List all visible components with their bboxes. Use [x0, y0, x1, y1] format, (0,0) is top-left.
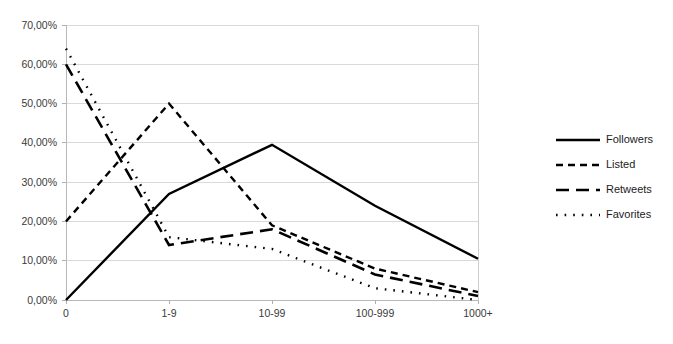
legend-label-favorites: Favorites: [606, 208, 652, 220]
legend-label-listed: Listed: [606, 158, 635, 170]
x-axis-tick-label: 10-99: [259, 307, 286, 319]
y-axis-tick-label: 20,00%: [21, 215, 57, 227]
y-axis-tick-label: 40,00%: [21, 136, 57, 148]
legend-label-followers: Followers: [606, 133, 654, 145]
y-axis-tick-label: 70,00%: [21, 19, 57, 31]
y-axis-tick-label: 50,00%: [21, 97, 57, 109]
chart-container: 0,00%10,00%20,00%30,00%40,00%50,00%60,00…: [0, 0, 673, 344]
x-axis-tick-label: 0: [63, 307, 69, 319]
y-axis-tick-label: 0,00%: [27, 294, 57, 306]
x-axis-tick-label: 1-9: [161, 307, 176, 319]
x-axis-tick-label: 100-999: [356, 307, 395, 319]
x-axis-tick-label: 1000+: [463, 307, 493, 319]
y-axis-tick-label: 60,00%: [21, 58, 57, 70]
line-chart: 0,00%10,00%20,00%30,00%40,00%50,00%60,00…: [0, 0, 673, 344]
legend-label-retweets: Retweets: [606, 183, 652, 195]
y-axis-tick-label: 10,00%: [21, 254, 57, 266]
y-axis-tick-label: 30,00%: [21, 176, 57, 188]
